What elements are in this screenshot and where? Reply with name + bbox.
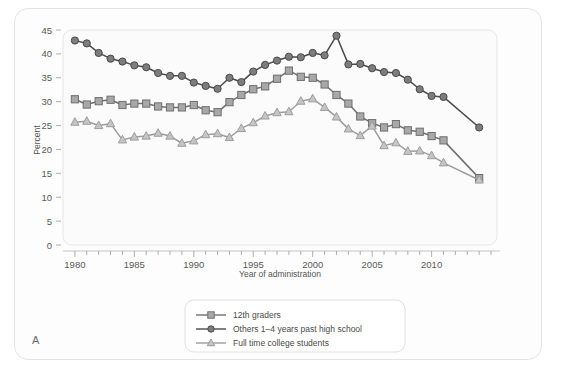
data-point-marker-square xyxy=(380,124,387,131)
data-point-marker-circle xyxy=(309,49,316,56)
data-point-marker-square xyxy=(392,121,399,128)
data-point-marker-circle xyxy=(226,74,233,81)
data-point-marker-square xyxy=(166,104,173,111)
legend-label: 12th graders xyxy=(233,310,281,320)
data-point-marker-square xyxy=(143,100,150,107)
legend-label: Full time college students xyxy=(233,338,329,348)
data-point-marker-circle xyxy=(208,326,214,332)
data-point-marker-square xyxy=(226,99,233,106)
data-point-marker-square xyxy=(131,100,138,107)
data-point-marker-square xyxy=(238,91,245,98)
y-tick-label: 0 xyxy=(47,240,52,251)
data-point-marker-circle xyxy=(250,68,257,75)
y-tick-label: 45 xyxy=(41,25,52,36)
legend-label: Others 1–4 years past high school xyxy=(233,324,362,334)
data-point-marker-circle xyxy=(119,58,126,65)
x-tick-label: 2010 xyxy=(421,259,442,270)
y-axis-title: Percent xyxy=(32,125,42,155)
data-point-marker-square xyxy=(119,101,126,108)
data-point-marker-circle xyxy=(321,52,328,59)
data-point-marker-square xyxy=(107,96,114,103)
data-point-marker-square xyxy=(83,101,90,108)
data-point-marker-circle xyxy=(440,93,447,100)
data-point-marker-square xyxy=(262,83,269,90)
x-tick-label: 1985 xyxy=(124,259,145,270)
data-point-marker-square xyxy=(190,101,197,108)
data-point-marker-circle xyxy=(380,68,387,75)
data-point-marker-square xyxy=(333,91,340,98)
data-point-marker-circle xyxy=(143,64,150,71)
data-point-marker-square xyxy=(309,74,316,81)
data-point-marker-square xyxy=(404,127,411,134)
data-point-marker-square xyxy=(178,104,185,111)
data-point-marker-square xyxy=(321,81,328,88)
y-tick-label: 25 xyxy=(41,120,52,131)
data-point-marker-circle xyxy=(416,86,423,93)
data-point-marker-circle xyxy=(404,76,411,83)
x-tick-label: 2005 xyxy=(362,259,383,270)
data-point-marker-square xyxy=(214,109,221,116)
y-tick-label: 40 xyxy=(41,48,52,59)
x-axis: 1980198519901995200020052010 xyxy=(63,251,500,270)
chart-legend: 12th gradersOthers 1–4 years past high s… xyxy=(185,300,405,352)
data-point-marker-circle xyxy=(392,69,399,76)
x-tick-label: 1980 xyxy=(64,259,85,270)
data-point-marker-circle xyxy=(345,61,352,68)
data-point-marker-circle xyxy=(190,79,197,86)
data-point-marker-square xyxy=(250,86,257,93)
panel-label: A xyxy=(32,334,40,346)
y-tick-label: 15 xyxy=(41,168,52,179)
data-point-marker-circle xyxy=(285,53,292,60)
y-tick-label: 30 xyxy=(41,96,52,107)
data-point-marker-circle xyxy=(83,40,90,47)
data-point-marker-circle xyxy=(273,57,280,64)
data-point-marker-circle xyxy=(131,62,138,69)
data-point-marker-circle xyxy=(214,85,221,92)
data-point-marker-circle xyxy=(297,54,304,61)
data-point-marker-circle xyxy=(428,92,435,99)
x-tick-label: 1990 xyxy=(183,259,204,270)
y-tick-label: 5 xyxy=(47,216,52,227)
data-point-marker-circle xyxy=(333,32,340,39)
data-point-marker-square xyxy=(273,75,280,82)
data-point-marker-circle xyxy=(166,72,173,79)
data-point-marker-circle xyxy=(95,49,102,56)
y-tick-label: 10 xyxy=(41,192,52,203)
data-point-marker-circle xyxy=(238,78,245,85)
chart-figure: 051015202530354045 198019851990199520002… xyxy=(0,0,564,376)
data-point-marker-square xyxy=(428,132,435,139)
data-point-marker-circle xyxy=(262,61,269,68)
data-point-marker-circle xyxy=(178,72,185,79)
y-axis: 051015202530354045 xyxy=(41,25,61,251)
x-axis-title: Year of administration xyxy=(239,269,321,279)
data-point-marker-circle xyxy=(369,65,376,72)
data-point-marker-square xyxy=(440,137,447,144)
data-point-marker-square xyxy=(95,98,102,105)
y-tick-label: 20 xyxy=(41,144,52,155)
data-point-marker-square xyxy=(297,73,304,80)
data-point-marker-circle xyxy=(476,124,483,131)
data-point-marker-square xyxy=(71,96,78,103)
data-point-marker-circle xyxy=(71,37,78,44)
data-point-marker-circle xyxy=(202,82,209,89)
data-point-marker-square xyxy=(155,103,162,110)
data-point-marker-square xyxy=(208,312,214,318)
data-point-marker-circle xyxy=(357,60,364,67)
data-point-marker-square xyxy=(202,107,209,114)
data-point-marker-circle xyxy=(155,69,162,76)
data-point-marker-square xyxy=(357,113,364,120)
y-tick-label: 35 xyxy=(41,72,52,83)
data-point-marker-circle xyxy=(107,55,114,62)
data-point-marker-square xyxy=(285,67,292,74)
data-point-marker-square xyxy=(345,100,352,107)
data-point-marker-square xyxy=(416,128,423,135)
